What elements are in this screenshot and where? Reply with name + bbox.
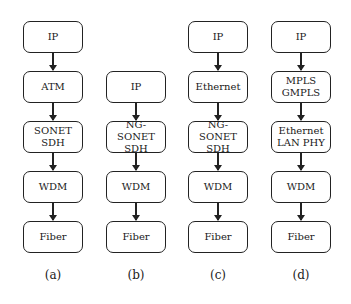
stack-layer-b-ip: IP xyxy=(106,71,166,103)
down-arrow-icon xyxy=(217,103,219,120)
stack-layer-c-ng-sonet: NG-SONET SDH xyxy=(188,121,248,153)
stack-layer-a-atm: ATM xyxy=(23,71,83,103)
stack-layer-c-ip: IP xyxy=(188,21,248,53)
column-caption-b: (b) xyxy=(106,268,166,282)
stack-layer-c-wdm: WDM xyxy=(188,171,248,203)
stack-layer-a-ip: IP xyxy=(23,21,83,53)
down-arrow-icon xyxy=(300,53,302,70)
column-caption-d: (d) xyxy=(271,268,331,282)
stack-layer-d-fiber: Fiber xyxy=(271,221,331,253)
down-arrow-icon xyxy=(300,153,302,170)
down-arrow-icon xyxy=(217,203,219,220)
down-arrow-icon xyxy=(52,53,54,70)
down-arrow-icon xyxy=(52,153,54,170)
stack-layer-a-wdm: WDM xyxy=(23,171,83,203)
down-arrow-icon xyxy=(52,203,54,220)
down-arrow-icon xyxy=(217,153,219,170)
stack-layer-d-wdm: WDM xyxy=(271,171,331,203)
down-arrow-icon xyxy=(52,103,54,120)
stack-layer-c-ethernet: Ethernet xyxy=(188,71,248,103)
down-arrow-icon xyxy=(300,103,302,120)
down-arrow-icon xyxy=(300,203,302,220)
column-caption-a: (a) xyxy=(23,268,83,282)
stack-layer-a-fiber: Fiber xyxy=(23,221,83,253)
stack-layer-a-sonet: SONET SDH xyxy=(23,121,83,153)
down-arrow-icon xyxy=(135,103,137,120)
stack-layer-b-wdm: WDM xyxy=(106,171,166,203)
stack-layer-d-mpls: MPLS GMPLS xyxy=(271,71,331,103)
stack-layer-b-fiber: Fiber xyxy=(106,221,166,253)
down-arrow-icon xyxy=(217,53,219,70)
down-arrow-icon xyxy=(135,203,137,220)
stack-layer-d-ethernet: Ethernet LAN PHY xyxy=(271,121,331,153)
stack-layer-b-ng-sonet: NG-SONET SDH xyxy=(106,121,166,153)
stack-layer-c-fiber: Fiber xyxy=(188,221,248,253)
column-caption-c: (c) xyxy=(188,268,248,282)
stack-layer-d-ip: IP xyxy=(271,21,331,53)
down-arrow-icon xyxy=(135,153,137,170)
